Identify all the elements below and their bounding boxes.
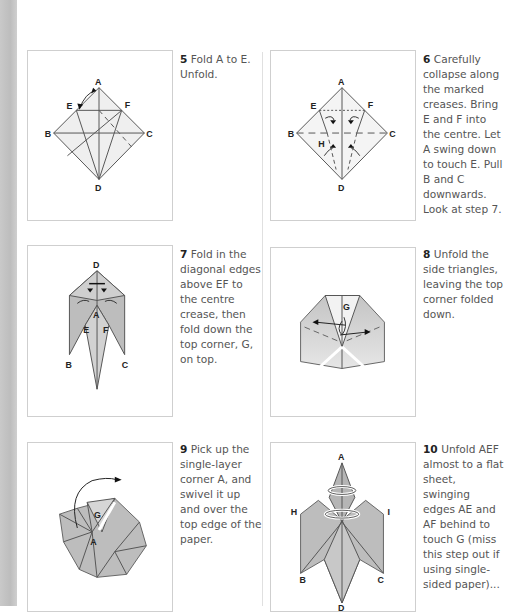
svg-text:C: C xyxy=(122,360,129,370)
step-7-diagram: D A E F B C xyxy=(27,245,173,417)
step-9-caption: 9 Pick up the single-layer corner A, and… xyxy=(180,442,262,547)
unfold-side-triangles-diagram: G xyxy=(271,248,415,416)
step-number: 7 xyxy=(180,248,187,260)
step-text: Pick up the single-layer corner A, and s… xyxy=(180,443,262,545)
step-text: Fold in the diagonal edges above EF to t… xyxy=(180,248,261,365)
step-5-diagram: A E F B C D xyxy=(27,50,173,221)
step-8-caption: 8 Unfold the side triangles, leaving the… xyxy=(423,247,505,322)
step-6-caption: 6 Carefully collapse along the marked cr… xyxy=(423,52,505,217)
svg-text:H: H xyxy=(291,507,297,517)
step-text: Unfold AEF almost to a flat sheet, swing… xyxy=(423,443,503,590)
svg-text:D: D xyxy=(95,183,102,193)
collapse-crease-diagram: A E F B C H D xyxy=(271,51,415,220)
square-base-crease-diagram: A E F B C D xyxy=(28,51,172,220)
step-number: 8 xyxy=(423,248,430,260)
svg-text:G: G xyxy=(94,510,101,520)
svg-text:D: D xyxy=(338,603,345,611)
svg-text:F: F xyxy=(125,100,131,110)
step-text: Fold A to E. Unfold. xyxy=(180,53,251,80)
step-8-diagram: G xyxy=(270,247,416,417)
step-10-diagram: A H I B C D xyxy=(270,442,416,612)
step-6-diagram: A E F B C H D xyxy=(270,50,416,221)
svg-text:A: A xyxy=(338,452,345,462)
step-5-caption: 5 Fold A to E. Unfold. xyxy=(180,52,262,82)
svg-text:A: A xyxy=(338,77,345,87)
svg-text:C: C xyxy=(146,129,153,139)
svg-text:B: B xyxy=(288,129,294,139)
page-edge-strip xyxy=(0,0,17,606)
svg-text:B: B xyxy=(45,129,51,139)
svg-text:F: F xyxy=(368,100,374,110)
svg-text:E: E xyxy=(66,101,72,111)
step-text: Carefully collapse along the marked crea… xyxy=(423,53,503,215)
step-number: 9 xyxy=(180,443,187,455)
svg-text:A: A xyxy=(90,537,97,547)
svg-text:B: B xyxy=(65,360,71,370)
step-7-caption: 7 Fold in the diagonal edges above EF to… xyxy=(180,247,262,367)
step-number: 5 xyxy=(180,53,187,65)
svg-text:E: E xyxy=(83,325,89,335)
step-9-diagram: G A xyxy=(27,442,173,612)
svg-text:I: I xyxy=(387,507,389,517)
svg-text:B: B xyxy=(300,575,306,585)
svg-text:F: F xyxy=(103,325,109,335)
swivel-corner-diagram: G A xyxy=(28,443,172,611)
step-number: 10 xyxy=(423,443,438,455)
unfold-aef-diagram: A H I B C D xyxy=(271,443,415,611)
svg-text:A: A xyxy=(93,310,100,320)
svg-text:G: G xyxy=(343,302,350,312)
svg-text:E: E xyxy=(310,101,316,111)
svg-text:C: C xyxy=(378,575,385,585)
step-number: 6 xyxy=(423,53,430,65)
svg-text:H: H xyxy=(318,139,324,149)
step-text: Unfold the side triangles, leaving the t… xyxy=(423,248,503,320)
svg-text:A: A xyxy=(95,77,102,87)
svg-text:D: D xyxy=(338,183,345,193)
diamond-fold-diagram: D A E F B C xyxy=(28,246,172,416)
svg-text:D: D xyxy=(93,260,100,270)
svg-text:C: C xyxy=(389,129,396,139)
step-10-caption: 10 Unfold AEF almost to a flat sheet, sw… xyxy=(423,442,505,592)
column-divider xyxy=(262,52,263,606)
